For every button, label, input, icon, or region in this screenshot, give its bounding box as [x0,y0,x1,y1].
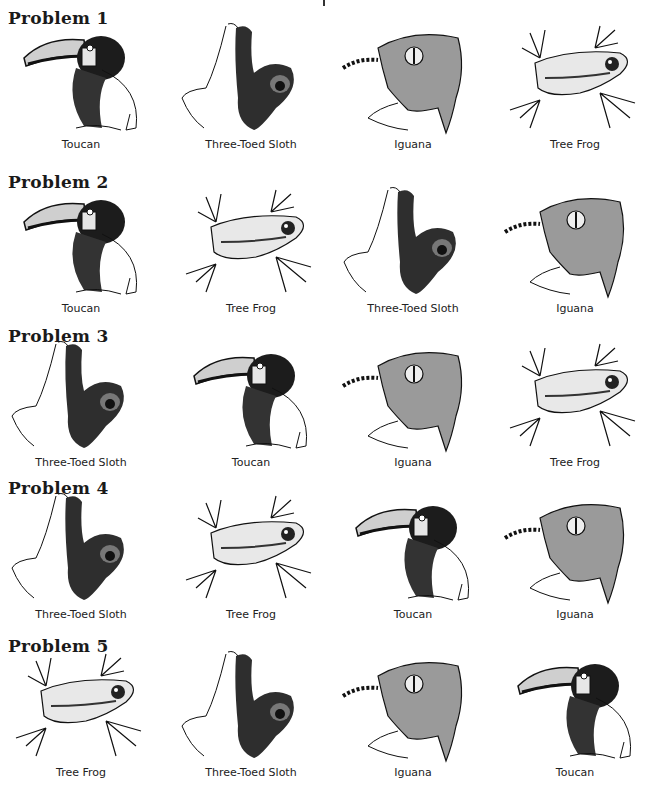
animal-caption: Three-Toed Sloth [176,766,326,779]
animal-cell-tree-frog: Tree Frog [500,336,650,476]
animal-cell-toucan: Toucan [6,182,156,322]
animal-caption: Toucan [338,608,488,621]
animal-cell-three-toed-sloth: Three-Toed Sloth [176,646,326,786]
animal-caption: Toucan [6,138,156,151]
animal-cell-three-toed-sloth: Three-Toed Sloth [6,336,156,476]
animal-cell-tree-frog: Tree Frog [176,488,326,628]
animal-cell-iguana: Iguana [338,18,488,158]
animal-caption: Tree Frog [500,138,650,151]
animal-cell-three-toed-sloth: Three-Toed Sloth [338,182,488,322]
animal-cell-iguana: Iguana [500,488,650,628]
animal-cell-toucan: Toucan [338,488,488,628]
animal-caption: Iguana [338,456,488,469]
animal-cell-iguana: Iguana [338,646,488,786]
animal-cell-toucan: Toucan [500,646,650,786]
animal-caption: Toucan [176,456,326,469]
animal-cell-toucan: Toucan [6,18,156,158]
animal-cell-three-toed-sloth: Three-Toed Sloth [6,488,156,628]
animal-cell-toucan: Toucan [176,336,326,476]
animal-caption: Three-Toed Sloth [338,302,488,315]
animal-cell-iguana: Iguana [338,336,488,476]
animal-caption: Iguana [338,766,488,779]
animal-cell-tree-frog: Tree Frog [6,646,156,786]
animal-cell-tree-frog: Tree Frog [500,18,650,158]
animal-caption: Three-Toed Sloth [6,456,156,469]
page-top-mark [323,0,325,6]
animal-caption: Tree Frog [500,456,650,469]
animal-cell-tree-frog: Tree Frog [176,182,326,322]
animal-caption: Tree Frog [176,608,326,621]
animal-caption: Iguana [500,608,650,621]
animal-caption: Toucan [6,302,156,315]
animal-caption: Iguana [500,302,650,315]
animal-caption: Iguana [338,138,488,151]
animal-caption: Three-Toed Sloth [176,138,326,151]
animal-caption: Tree Frog [176,302,326,315]
animal-caption: Tree Frog [6,766,156,779]
animal-caption: Toucan [500,766,650,779]
animal-caption: Three-Toed Sloth [6,608,156,621]
animal-cell-iguana: Iguana [500,182,650,322]
animal-cell-three-toed-sloth: Three-Toed Sloth [176,18,326,158]
